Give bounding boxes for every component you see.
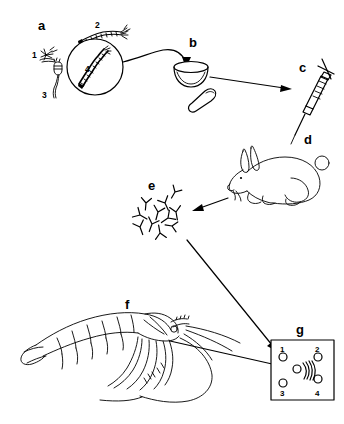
item-4-number: 4 xyxy=(85,64,90,74)
well-1-number: 1 xyxy=(280,345,285,354)
well-1 xyxy=(279,353,287,361)
well-center xyxy=(293,365,301,373)
panel-label-c: c xyxy=(299,60,306,75)
well-4 xyxy=(314,375,322,383)
figure-canvas: 1 2 3 xyxy=(0,0,344,424)
panel-label-e: e xyxy=(148,178,155,193)
panel-label-g: g xyxy=(296,322,304,337)
well-3-number: 3 xyxy=(280,389,285,398)
well-2 xyxy=(314,353,322,361)
item-3-number: 3 xyxy=(42,90,47,100)
item-1-number: 1 xyxy=(32,50,37,60)
well-4-number: 4 xyxy=(315,389,320,398)
panel-label-b: b xyxy=(189,35,197,50)
panel-label-d: d xyxy=(304,132,312,147)
well-2-number: 2 xyxy=(315,345,320,354)
panel-label-f: f xyxy=(125,297,130,312)
panel-label-a: a xyxy=(38,18,46,33)
magnifier-circle xyxy=(67,39,123,95)
well-3 xyxy=(279,379,287,387)
figure-root: 1 2 3 xyxy=(0,0,344,424)
item-2-number: 2 xyxy=(95,20,100,30)
